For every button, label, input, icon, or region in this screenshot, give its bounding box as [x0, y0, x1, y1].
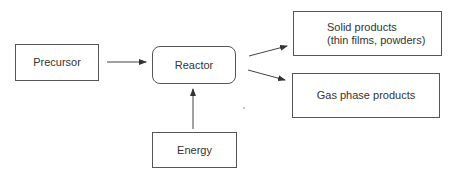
precursor-node: Precursor	[15, 44, 99, 81]
arrow-reactor-to-solid	[249, 46, 287, 56]
solid-products-label: Solid products	[327, 21, 397, 34]
reactor-label: Reactor	[175, 59, 214, 72]
solid-products-sublabel: (thin films, powders)	[327, 34, 425, 47]
gas-products-label: Gas phase products	[317, 89, 415, 102]
gas-products-node: Gas phase products	[292, 73, 440, 118]
energy-node: Energy	[152, 132, 237, 168]
energy-label: Energy	[177, 144, 212, 157]
precursor-label: Precursor	[33, 56, 81, 69]
solid-products-node: Solid products (thin films, powders)	[293, 11, 442, 56]
reactor-node: Reactor	[152, 46, 236, 84]
arrow-reactor-to-gas	[248, 70, 285, 80]
